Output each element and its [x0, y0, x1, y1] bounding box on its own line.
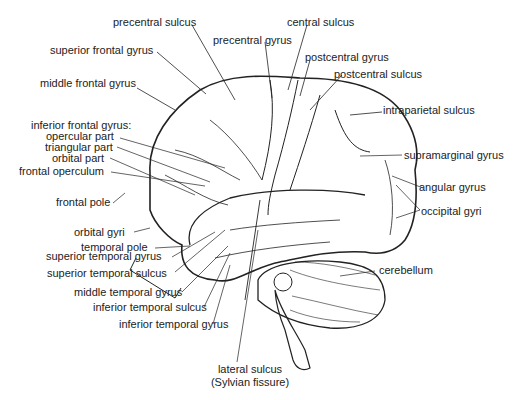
temporal-lobe-outline: [189, 190, 365, 245]
label-intraparietal-sulcus: intraparietal sulcus: [383, 104, 475, 117]
label-superior-frontal-gyrus: superior frontal gyrus: [50, 44, 153, 57]
cerebrum-outline: [150, 76, 417, 281]
label-frontal-pole: frontal pole: [56, 196, 110, 209]
label-superior-temporal-gyrus: superior temporal gyrus: [46, 250, 162, 263]
label-angular-gyrus: angular gyrus: [419, 181, 486, 194]
label-orbital-gyri: orbital gyri: [74, 226, 125, 239]
label-postcentral-sulcus: postcentral sulcus: [334, 68, 422, 81]
label-orbital-part: orbital part: [52, 152, 104, 165]
label-precentral-sulcus: precentral sulcus: [113, 16, 196, 29]
cerebellum-outline: [258, 261, 385, 328]
label-frontal-operculum: frontal operculum: [19, 165, 104, 178]
label-occipital-gyri: occipital gyri: [421, 205, 482, 218]
label-precentral-gyrus: precentral gyrus: [213, 34, 292, 47]
label-sylvian-fissure: (Sylvian fissure): [195, 376, 305, 389]
label-lateral-sulcus: lateral sulcus: [195, 363, 305, 376]
label-central-sulcus: central sulcus: [287, 16, 354, 29]
label-cerebellum: cerebellum: [379, 264, 433, 277]
label-supramarginal-gyrus: supramarginal gyrus: [404, 149, 504, 162]
label-middle-frontal-gyrus: middle frontal gyrus: [40, 77, 136, 90]
label-postcentral-gyrus: postcentral gyrus: [305, 51, 389, 64]
label-inferior-temporal-sulcus: inferior temporal sulcus: [93, 301, 207, 314]
label-middle-temporal-gyrus: middle temporal gyrus: [74, 286, 182, 299]
label-inferior-temporal-gyrus: inferior temporal gyrus: [119, 318, 228, 331]
brain-diagram: precentral sulcus central sulcus superio…: [0, 0, 532, 400]
label-superior-temporal-sulcus: superior temporal sulcus: [47, 267, 167, 280]
